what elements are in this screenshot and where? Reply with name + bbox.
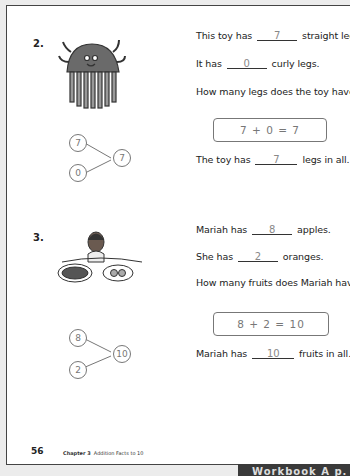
problem-3-line-1: Mariah has 8 apples.	[196, 224, 331, 235]
workbook-reference-bar: Workbook A p. 56	[238, 464, 350, 476]
problem-3-line-2: She has 2 oranges.	[196, 251, 323, 262]
answer-blank[interactable]: 7	[255, 155, 297, 165]
problem-2-question: How many legs does the toy have in all?	[196, 86, 350, 97]
problem-2-line-2: It has 0 curly legs.	[196, 58, 319, 69]
problem-3-question: How many fruits does Mariah have in all?	[196, 277, 350, 288]
bond-part-circle[interactable]: 0	[69, 164, 87, 182]
answer-blank[interactable]: 0	[227, 59, 267, 69]
girl-with-fruit-plates-icon	[50, 228, 150, 286]
problem-3-conclusion: Mariah has 10 fruits in all.	[196, 348, 350, 359]
chapter-footer: Chapter 3 Addition Facts to 10	[63, 450, 143, 456]
bond-whole-circle[interactable]: 7	[113, 149, 131, 167]
answer-blank[interactable]: 10	[252, 349, 294, 359]
bond-part-circle[interactable]: 2	[69, 361, 87, 379]
problem-2-line-1: This toy has 7 straight legs.	[196, 30, 350, 41]
answer-blank[interactable]: 2	[238, 252, 278, 262]
answer-blank[interactable]: 7	[257, 31, 297, 41]
problem-number: 2.	[33, 38, 44, 49]
equation-box[interactable]: 7 + 0 = 7	[213, 118, 327, 142]
problem-2-conclusion: The toy has 7 legs in all.	[196, 154, 350, 165]
bond-part-circle[interactable]: 8	[69, 329, 87, 347]
octopus-toy-icon	[57, 34, 127, 114]
equation-box[interactable]: 8 + 2 = 10	[213, 312, 329, 336]
workbook-page: 2. This toy has 7 straight legs. It has …	[6, 5, 350, 465]
bond-part-circle[interactable]: 7	[69, 134, 87, 152]
problem-number: 3.	[33, 232, 44, 243]
answer-blank[interactable]: 8	[252, 225, 292, 235]
bond-whole-circle[interactable]: 10	[113, 345, 131, 363]
page-number: 56	[31, 446, 44, 456]
